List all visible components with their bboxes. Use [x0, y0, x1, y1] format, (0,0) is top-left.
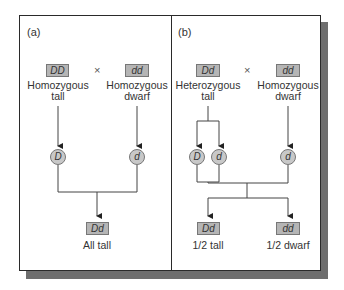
parent2-genotype-box-b: dd: [276, 64, 300, 77]
gamete-d-b1: d: [211, 149, 227, 165]
parent2-description-line2: dwarf: [97, 91, 177, 102]
cross-symbol-a: ×: [94, 64, 100, 76]
parent1-genotype-box-b: Dd: [196, 64, 220, 77]
parent2-description-b: Homozygous dwarf: [248, 80, 328, 102]
gamete-D: D: [50, 149, 66, 165]
parent1-description-b: Heterozygous tall: [168, 80, 248, 102]
parent1-description: Homozygous tall: [18, 80, 98, 102]
panel-a-label: (a): [27, 26, 40, 38]
parent2-genotype-box: dd: [125, 64, 149, 77]
offspring-genotype-box: Dd: [86, 222, 109, 235]
cross-symbol-b: ×: [244, 64, 250, 76]
parent2-description-b-line2: dwarf: [248, 91, 328, 102]
offspring-tall-description: 1/2 tall: [168, 240, 248, 251]
offspring-tall-genotype-box: Dd: [197, 222, 220, 235]
panel-b-label: (b): [178, 26, 191, 38]
offspring-dwarf-genotype-box: dd: [276, 222, 300, 235]
gamete-d-b2: d: [280, 149, 296, 165]
gamete-d: d: [129, 149, 145, 165]
offspring-description: All tall: [57, 240, 137, 251]
parent2-description: Homozygous dwarf: [97, 80, 177, 102]
offspring-dwarf-description: 1/2 dwarf: [248, 240, 328, 251]
gamete-D-b: D: [189, 149, 205, 165]
parent1-description-line2: tall: [18, 91, 98, 102]
parent1-genotype-box: DD: [46, 64, 69, 77]
parent1-description-b-line2: tall: [168, 91, 248, 102]
